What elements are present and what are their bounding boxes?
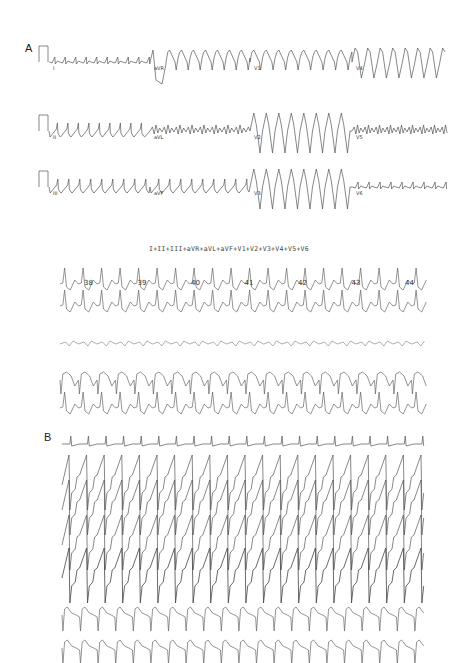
beat-number-40: 40 xyxy=(191,279,200,287)
calibration-pulse xyxy=(39,46,48,62)
beat-number-38: 38 xyxy=(84,279,93,287)
averaged-strip-1 xyxy=(60,268,426,290)
beat-number-43: 43 xyxy=(352,279,361,287)
averaged-strip-2 xyxy=(60,290,426,312)
averaged-strip-4 xyxy=(60,372,426,394)
lead-label-v1: V1 xyxy=(254,65,261,71)
calibration-pulse xyxy=(39,171,48,187)
lead-label-v6: V6 xyxy=(356,190,363,196)
beat-number-39: 39 xyxy=(138,279,147,287)
beat-number-42: 42 xyxy=(298,279,307,287)
lead-label-avr: aVR xyxy=(154,65,164,71)
ecg-lead-row xyxy=(49,48,445,84)
ecg-panel-a: IaVRV1V4IIaVLV2V5IIIaVFV3V63839404142434… xyxy=(0,0,458,663)
channel-b-2 xyxy=(62,455,424,510)
lead-label-avl: aVL xyxy=(154,134,163,140)
channel-b-5 xyxy=(62,548,424,603)
ecg-lead-row xyxy=(49,113,447,153)
channel-b-6 xyxy=(62,607,424,631)
averaged-strip-3 xyxy=(60,341,424,346)
lead-label-ii: II xyxy=(53,134,56,140)
lead-label-iii: III xyxy=(53,190,57,196)
beat-number-44: 44 xyxy=(405,279,414,287)
lead-sum-caption: I+II+III+aVR+aVL+aVF+V1+V2+V3+V4+V5+V6 xyxy=(0,245,458,253)
channel-b-1 xyxy=(62,436,424,446)
channel-b-7 xyxy=(62,640,424,663)
averaged-strip-5 xyxy=(60,392,426,414)
lead-label-v3: V3 xyxy=(254,190,261,196)
lead-label-avf: aVF xyxy=(154,190,163,196)
ecg-lead-row xyxy=(49,169,447,209)
channel-b-4 xyxy=(62,515,424,570)
lead-label-v2: V2 xyxy=(254,134,261,140)
lead-label-v5: V5 xyxy=(356,134,363,140)
lead-label-i: I xyxy=(53,65,54,71)
calibration-pulse xyxy=(39,115,48,131)
beat-number-41: 41 xyxy=(245,279,254,287)
lead-label-v4: V4 xyxy=(356,65,363,71)
